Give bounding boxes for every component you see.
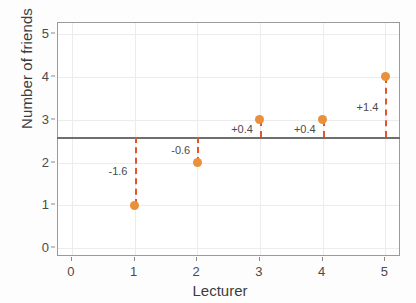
grid-line-vertical	[72, 23, 73, 255]
x-tick-mark	[71, 257, 72, 261]
x-tick-label: 1	[130, 264, 137, 279]
y-tick-mark	[51, 32, 55, 33]
grid-line-horizontal	[58, 163, 399, 164]
y-tick-mark	[51, 204, 55, 205]
y-tick-label: 3	[27, 111, 49, 126]
data-point[interactable]	[130, 201, 139, 210]
data-point[interactable]	[381, 72, 390, 81]
mean-reference-line	[57, 137, 400, 139]
deviation-line	[385, 77, 387, 137]
x-axis-title: Lecturer	[0, 282, 416, 299]
x-tick-label: 3	[255, 264, 262, 279]
x-tick-label: 5	[381, 264, 388, 279]
deviation-label: +0.4	[294, 123, 321, 135]
grid-line-vertical	[385, 23, 386, 255]
deviation-line	[135, 137, 137, 206]
grid-line-horizontal	[58, 34, 399, 35]
y-tick-mark	[51, 247, 55, 248]
y-axis: 012345	[29, 22, 55, 256]
x-tick-label: 0	[67, 264, 74, 279]
deviation-label: +1.4	[357, 101, 384, 113]
data-point[interactable]	[193, 158, 202, 167]
grid-line-horizontal	[58, 205, 399, 206]
y-tick-mark	[51, 118, 55, 119]
x-tick-mark	[134, 257, 135, 261]
x-tick-label: 4	[318, 264, 325, 279]
y-tick-mark	[51, 161, 55, 162]
x-tick-label: 2	[193, 264, 200, 279]
y-tick-label: 2	[27, 154, 49, 169]
x-tick-mark	[322, 257, 323, 261]
deviation-label: -1.6	[109, 165, 133, 177]
x-tick-mark	[196, 257, 197, 261]
y-tick-mark	[51, 75, 55, 76]
y-tick-label: 5	[27, 25, 49, 40]
x-axis: 012345	[57, 257, 400, 279]
grid-line-horizontal	[58, 248, 399, 249]
y-tick-label: 1	[27, 197, 49, 212]
grid-line-vertical	[260, 23, 261, 255]
x-tick-mark	[259, 257, 260, 261]
deviation-label: +0.4	[231, 123, 258, 135]
chart-canvas: Number of friends 012345 -1.6-0.6+0.4+0.…	[0, 0, 416, 303]
grid-line-vertical	[323, 23, 324, 255]
plot-panel: -1.6-0.6+0.4+0.4+1.4	[57, 22, 400, 256]
grid-line-horizontal	[58, 120, 399, 121]
deviation-label: -0.6	[171, 144, 195, 156]
x-tick-mark	[384, 257, 385, 261]
y-tick-label: 0	[27, 240, 49, 255]
grid-line-horizontal	[58, 77, 399, 78]
y-tick-label: 4	[27, 68, 49, 83]
